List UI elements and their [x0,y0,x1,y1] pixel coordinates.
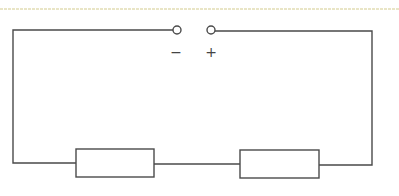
wire-left [13,30,173,163]
terminal-positive: + [205,26,217,60]
resistor-2-icon [240,150,319,178]
terminal-negative-icon [173,26,181,34]
wire-right [215,31,372,165]
terminal-negative: − [170,26,182,60]
terminal-positive-label: + [205,44,217,60]
terminal-negative-label: − [170,44,182,60]
terminal-positive-icon [207,26,215,34]
resistor-1-icon [76,149,154,177]
wires [13,30,372,165]
circuit-diagram: − + [0,0,399,196]
